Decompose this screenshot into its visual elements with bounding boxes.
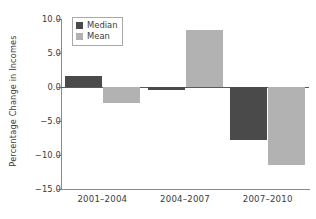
y-tick-label: −10.0 bbox=[7, 151, 61, 160]
bar-median-2 bbox=[148, 87, 185, 90]
y-tick-label-wrap: −10.0 bbox=[0, 151, 61, 160]
bar-mean-1 bbox=[103, 87, 140, 103]
y-tick-label: 5.0 bbox=[7, 49, 61, 58]
y-axis-title: Percentage Change in Incomes bbox=[6, 6, 20, 196]
bar-chart-figure: Percentage Change in Incomes 10.05.00.0−… bbox=[0, 0, 316, 219]
y-tick-label-wrap: 5.0 bbox=[0, 49, 61, 58]
legend-item-mean: Mean bbox=[76, 31, 117, 42]
bar-mean-2 bbox=[186, 30, 223, 87]
bar-median-3 bbox=[230, 87, 267, 140]
x-tick-label: 2004–2007 bbox=[140, 194, 230, 205]
y-tick-label-wrap: −15.0 bbox=[0, 185, 61, 194]
y-tick-label: −5.0 bbox=[7, 117, 61, 126]
legend-label-median: Median bbox=[87, 20, 117, 31]
y-tick-label-wrap: 10.0 bbox=[0, 15, 61, 24]
x-tick-label: 2007–2010 bbox=[223, 194, 313, 205]
bar-median-1 bbox=[65, 76, 102, 87]
legend-swatch-median-icon bbox=[76, 22, 83, 29]
y-tick-label-wrap: 0.0 bbox=[0, 83, 61, 92]
x-axis-spine bbox=[61, 189, 310, 190]
bar-mean-3 bbox=[268, 87, 305, 165]
legend-swatch-mean-icon bbox=[76, 33, 83, 40]
y-tick-label: 0.0 bbox=[7, 83, 61, 92]
y-tick-label-wrap: −5.0 bbox=[0, 117, 61, 126]
legend-label-mean: Mean bbox=[87, 31, 110, 42]
y-tick-label: 10.0 bbox=[7, 15, 61, 24]
x-tick-label: 2001–2004 bbox=[57, 194, 147, 205]
legend-item-median: Median bbox=[76, 20, 117, 31]
chart-legend: Median Mean bbox=[72, 17, 123, 46]
y-tick-label: −15.0 bbox=[7, 185, 61, 194]
